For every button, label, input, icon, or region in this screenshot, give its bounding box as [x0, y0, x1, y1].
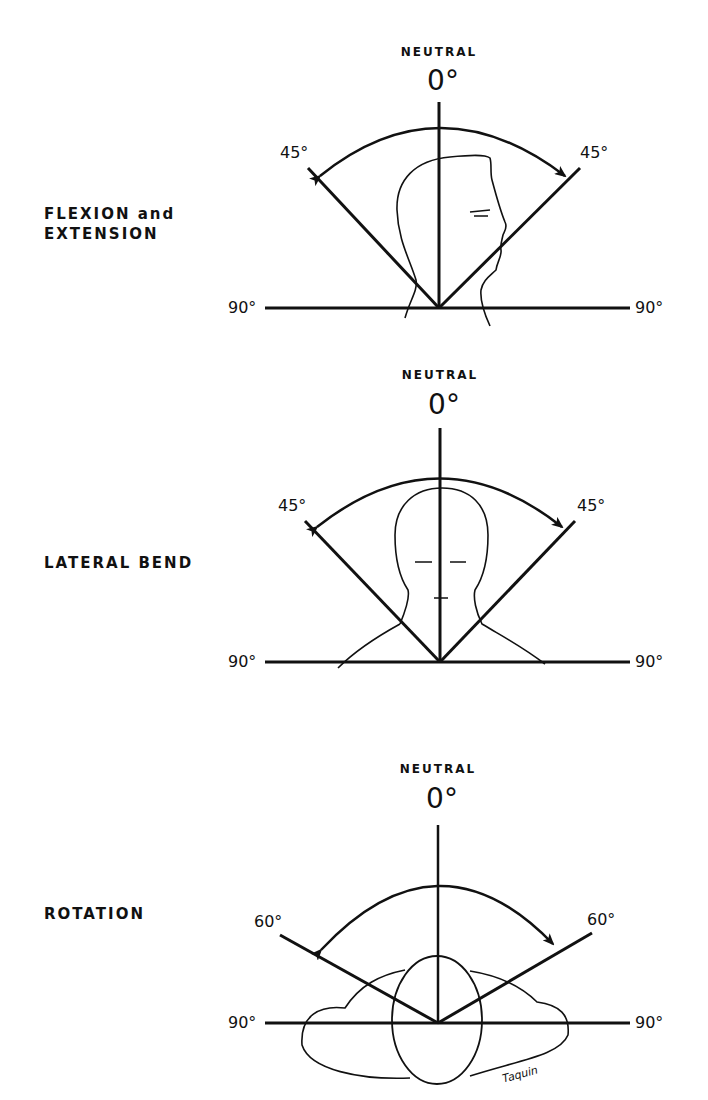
lateral-bend-diagram — [265, 428, 630, 668]
left-angle-label: 60° — [254, 912, 282, 931]
left-60-line — [280, 935, 438, 1023]
title-line-1: FLEXION and — [44, 204, 175, 224]
zero-degree-label: 0° — [427, 64, 459, 97]
rotation-title: ROTATION — [44, 904, 145, 924]
left-angle-label: 45° — [280, 143, 308, 162]
range-arc — [320, 128, 565, 176]
right-45-line — [440, 521, 575, 662]
flexion-extension-diagram — [265, 102, 630, 326]
neutral-label: NEUTRAL — [400, 762, 476, 776]
right-60-line — [438, 933, 592, 1023]
neutral-label: NEUTRAL — [401, 45, 477, 59]
rotation-diagram — [265, 825, 630, 1084]
right-angle-label: 45° — [577, 496, 605, 515]
right-end-label: 90° — [635, 1013, 663, 1032]
right-45-line — [439, 168, 580, 308]
right-angle-label: 60° — [587, 910, 615, 929]
left-end-label: 90° — [228, 1013, 256, 1032]
right-end-label: 90° — [635, 298, 663, 317]
zero-degree-label: 0° — [428, 388, 460, 421]
diagram-canvas — [0, 0, 708, 1100]
right-end-label: 90° — [635, 652, 663, 671]
left-45-line — [308, 168, 439, 308]
lateral-bend-title: LATERAL BEND — [44, 553, 193, 573]
left-angle-label: 45° — [278, 496, 306, 515]
title-line-2: EXTENSION — [44, 224, 175, 244]
left-end-label: 90° — [228, 298, 256, 317]
zero-degree-label: 0° — [426, 782, 458, 815]
left-end-label: 90° — [228, 652, 256, 671]
head-profile-icon — [397, 155, 506, 326]
right-angle-label: 45° — [580, 143, 608, 162]
flexion-extension-title: FLEXION and EXTENSION — [44, 204, 175, 244]
neutral-label: NEUTRAL — [402, 368, 478, 382]
